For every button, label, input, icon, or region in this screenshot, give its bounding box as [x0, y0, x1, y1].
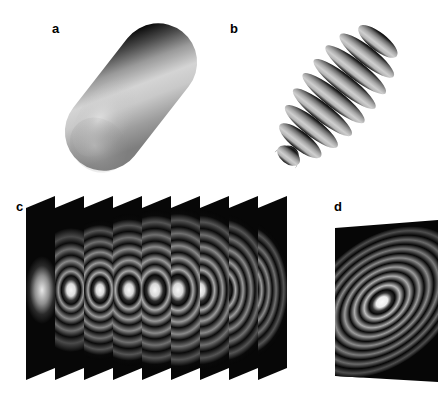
- panel-a-graphic: [0, 0, 224, 190]
- panel-d-label: d: [334, 200, 342, 213]
- panel-d-fringe-plane: d: [320, 190, 448, 402]
- panel-c-fringe-stack: c: [0, 190, 320, 402]
- panel-c-label: c: [16, 200, 23, 213]
- panel-a-label: a: [52, 22, 59, 35]
- panel-d-graphic: [320, 190, 448, 402]
- fringe-plane: [25, 196, 59, 380]
- panel-b-label: b: [230, 22, 238, 35]
- panel-b-graphic: [224, 0, 448, 190]
- panel-a-capsule: a: [0, 0, 224, 190]
- panel-b-slice-group: [253, 10, 414, 186]
- figure-canvas: a: [0, 0, 448, 402]
- panel-b-sliced-capsule: b: [224, 0, 448, 190]
- panel-c-graphic: [0, 190, 320, 402]
